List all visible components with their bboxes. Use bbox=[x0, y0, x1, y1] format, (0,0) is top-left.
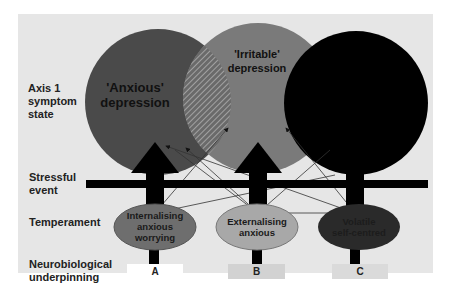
temperament-label-b: Externalising anxious bbox=[218, 216, 296, 238]
temperament-label-a: Internalising anxious worrying bbox=[116, 210, 194, 243]
underpinning-box-b: B bbox=[228, 264, 285, 279]
circle-label-irritable: 'Irritable' depression bbox=[222, 47, 292, 75]
label-neurobiological: Neurobiological underpinning bbox=[29, 258, 112, 284]
label-stressful-event: Stressful event bbox=[29, 171, 76, 197]
underpinning-box-c: C bbox=[332, 264, 388, 279]
label-axis1: Axis 1 symptom state bbox=[28, 82, 77, 121]
label-temperament: Temperament bbox=[29, 216, 100, 229]
temperament-label-c: Volatile self-centred bbox=[320, 216, 398, 238]
underpinning-box-a: A bbox=[127, 264, 183, 279]
circle-label-anxious: 'Anxious' depression bbox=[100, 80, 170, 110]
